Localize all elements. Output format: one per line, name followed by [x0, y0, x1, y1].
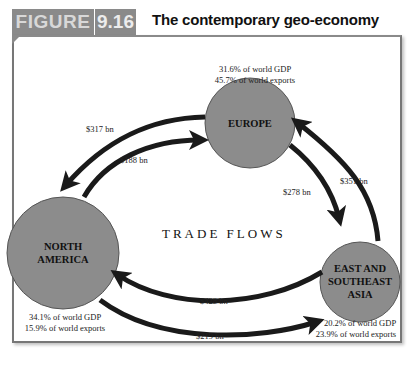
flow-label-188: $188 bn — [120, 155, 148, 166]
flow-label-351: $351 bn — [340, 176, 368, 187]
flow-label-317: $317 bn — [86, 124, 114, 135]
flow-label-219: $219 bn — [196, 331, 224, 342]
east-asia-name-line2: SOUTHEAST — [315, 275, 405, 288]
north-america-name-line1: NORTH — [23, 240, 103, 253]
east-asia-gdp: 20.2% of world GDP — [310, 318, 410, 329]
europe-gdp: 31.6% of world GDP — [212, 64, 298, 75]
arrow-north-america-to-europe — [84, 140, 200, 197]
north-america-gdp: 34.1% of world GDP — [15, 312, 115, 323]
arrow-europe-to-east-asia — [290, 145, 339, 218]
europe-name: EUROPE — [210, 117, 290, 130]
flow-label-428: $428 bn — [200, 296, 228, 307]
east-asia-name-line3: ASIA — [315, 288, 405, 301]
east-asia-exports: 23.9% of world exports — [300, 329, 412, 340]
flow-label-278: $278 bn — [283, 187, 311, 198]
trade-flows-label: TRADE FLOWS — [162, 226, 286, 242]
europe-exports: 45.7% of world exports — [202, 75, 308, 86]
north-america-name-line2: AMERICA — [23, 253, 103, 266]
east-asia-name-line1: EAST AND — [315, 262, 405, 275]
north-america-exports: 15.9% of world exports — [10, 323, 120, 334]
